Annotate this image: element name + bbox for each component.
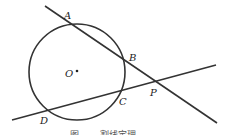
- label-p: P: [149, 87, 157, 98]
- label-b: B: [128, 52, 136, 63]
- label-a: A: [63, 10, 71, 21]
- secant-line-pba: [45, 6, 217, 123]
- center-dot: [76, 70, 79, 73]
- label-d: D: [39, 115, 48, 126]
- secant-diagram: O A B C D P 图…… 割线定理: [0, 0, 226, 135]
- figure-caption: 图…… 割线定理: [70, 129, 136, 135]
- secant-line-pcd: [12, 65, 216, 120]
- label-c: C: [119, 96, 127, 107]
- label-o: O: [65, 68, 73, 79]
